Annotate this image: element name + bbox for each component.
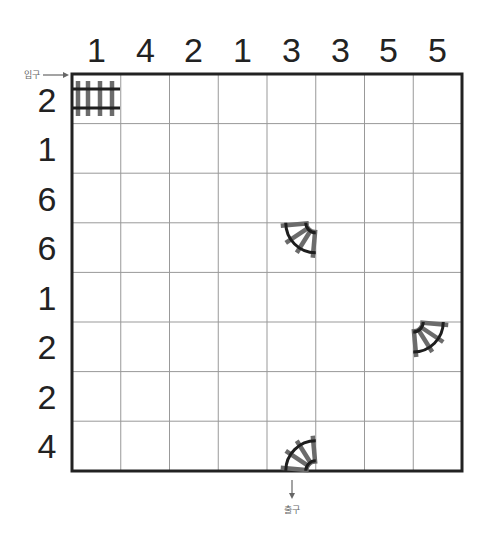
grid-cell[interactable] (121, 223, 170, 273)
grid-cell[interactable] (365, 223, 414, 273)
grid-cell[interactable] (413, 272, 462, 322)
grid-cell[interactable] (413, 74, 462, 124)
grid-cell[interactable] (170, 421, 219, 471)
grid-cell[interactable] (218, 272, 267, 322)
grid-cell[interactable] (170, 272, 219, 322)
grid-cell[interactable] (267, 74, 316, 124)
grid-cell[interactable] (218, 173, 267, 223)
grid-cell[interactable] (267, 272, 316, 322)
grid-cell[interactable] (218, 372, 267, 422)
grid-cell[interactable] (170, 74, 219, 124)
grid-cell[interactable] (121, 421, 170, 471)
grid-cell[interactable] (413, 173, 462, 223)
grid-cell[interactable] (170, 322, 219, 372)
grid-cell[interactable] (72, 124, 121, 174)
grid-cell[interactable] (218, 223, 267, 273)
grid-cell[interactable] (72, 421, 121, 471)
grid-cell[interactable] (72, 322, 121, 372)
entrance-arrow-icon (43, 72, 69, 78)
grid-cell[interactable] (316, 372, 365, 422)
grid-cell[interactable] (170, 372, 219, 422)
grid-cell[interactable] (365, 173, 414, 223)
grid-cell[interactable] (413, 372, 462, 422)
grid-cell[interactable] (218, 322, 267, 372)
grid-cell[interactable] (365, 421, 414, 471)
grid-cell[interactable] (316, 223, 365, 273)
grid-cell[interactable] (316, 421, 365, 471)
grid-cell[interactable] (72, 223, 121, 273)
grid-cell[interactable] (267, 322, 316, 372)
grid-cell[interactable] (413, 124, 462, 174)
grid-cell[interactable] (121, 372, 170, 422)
grid-cell[interactable] (170, 124, 219, 174)
grid-cell[interactable] (316, 124, 365, 174)
grid-cell[interactable] (365, 322, 414, 372)
grid-cell[interactable] (121, 74, 170, 124)
grid-cell[interactable] (72, 372, 121, 422)
grid-cell[interactable] (267, 124, 316, 174)
grid-cell[interactable] (365, 74, 414, 124)
grid-cell[interactable] (316, 74, 365, 124)
grid-cell[interactable] (218, 124, 267, 174)
grid-cell[interactable] (316, 322, 365, 372)
grid-cell[interactable] (218, 74, 267, 124)
grid-cell[interactable] (121, 173, 170, 223)
puzzle-board (0, 0, 482, 541)
grid-cell[interactable] (365, 372, 414, 422)
grid-cell[interactable] (316, 272, 365, 322)
grid-cell[interactable] (218, 421, 267, 471)
grid-cell[interactable] (365, 124, 414, 174)
grid-cell[interactable] (121, 322, 170, 372)
grid-cell[interactable] (170, 223, 219, 273)
grid-cell[interactable] (72, 272, 121, 322)
grid-cell[interactable] (413, 421, 462, 471)
grid-cell[interactable] (365, 272, 414, 322)
grid-cell[interactable] (267, 173, 316, 223)
grid-cell[interactable] (267, 372, 316, 422)
grid-cell[interactable] (121, 272, 170, 322)
grid-cell[interactable] (170, 173, 219, 223)
grid-cell[interactable] (121, 124, 170, 174)
grid-cell[interactable] (316, 173, 365, 223)
grid-cell[interactable] (413, 223, 462, 273)
grid-cell[interactable] (72, 173, 121, 223)
exit-arrow-icon (289, 480, 295, 499)
